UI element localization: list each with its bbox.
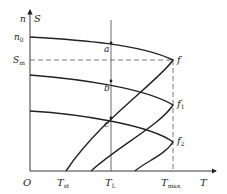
y-axis-label-s: S xyxy=(34,13,41,24)
y-axis-label-n: n xyxy=(20,14,26,24)
curve-2 xyxy=(30,75,173,171)
tl-label: TL xyxy=(105,177,116,189)
point-b-label: b xyxy=(104,83,110,93)
origin-label: O xyxy=(23,177,31,188)
tmax-label: Tmax xyxy=(161,177,181,189)
point-f2-label: f2 xyxy=(176,135,185,147)
point-a-marker xyxy=(110,42,113,45)
point-a-label: a xyxy=(104,44,109,54)
point-c-label: c xyxy=(104,119,109,129)
point-b-marker xyxy=(110,80,113,83)
point-f1-label: f1 xyxy=(176,98,185,110)
characteristic-diagram: n S O T n0 Sm Tst TL Tmax a b c f f1 f2 xyxy=(0,0,227,194)
tst-label: Tst xyxy=(57,177,70,189)
curve-1 xyxy=(30,37,173,171)
sm-label: Sm xyxy=(13,55,25,66)
n0-label: n0 xyxy=(14,32,24,43)
point-c-marker xyxy=(110,117,113,120)
x-axis-label-t: T xyxy=(200,177,208,188)
point-f-label: f xyxy=(176,54,183,65)
